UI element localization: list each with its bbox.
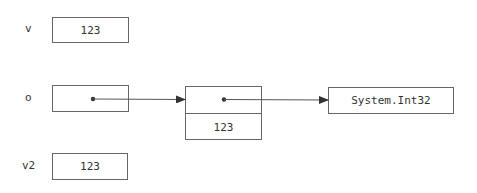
variable-value-v2: 123 bbox=[80, 160, 100, 173]
variable-label-o: o bbox=[25, 92, 32, 104]
type-object-box: System.Int32 bbox=[328, 87, 454, 114]
type-object-label: System.Int32 bbox=[351, 94, 430, 107]
variable-label-v: v bbox=[25, 23, 32, 35]
variable-box-v2: 123 bbox=[52, 153, 128, 180]
heap-object-box: 123 bbox=[185, 86, 262, 140]
variable-label-v2: v2 bbox=[22, 160, 35, 172]
heap-object-value: 123 bbox=[214, 121, 234, 134]
diagram-canvas: v 123 o v2 123 123 System.Int32 bbox=[0, 0, 477, 193]
variable-box-v: 123 bbox=[52, 17, 129, 43]
variable-value-v: 123 bbox=[81, 24, 101, 37]
heap-object-header-cell bbox=[186, 87, 261, 114]
heap-object-value-cell: 123 bbox=[186, 114, 261, 140]
variable-box-o bbox=[52, 85, 129, 112]
